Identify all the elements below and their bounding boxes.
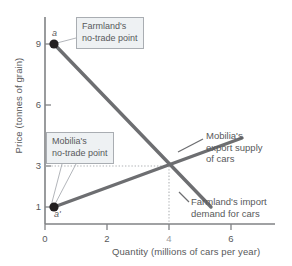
- callout-mobilia-no-trade-point[interactable]: Mobilia's no-trade point: [46, 132, 114, 164]
- curve-label-mobilia-export-supply: Mobilia's export supply of cars: [206, 130, 263, 165]
- callout-farmland-line2: no-trade point: [82, 33, 138, 45]
- leader-line-mobilia-a: [51, 164, 62, 206]
- y-tick-label-6: 6: [27, 99, 41, 110]
- point-a-prime-label: a': [54, 209, 61, 219]
- chart-container: Price (tonnes of grain) Quantity (millio…: [0, 0, 292, 266]
- callout-mobilia-line1: Mobilia's: [52, 136, 108, 148]
- leader-line-supply: [178, 139, 203, 152]
- y-tick-label-3: 3: [27, 160, 41, 171]
- curve-label-supply-line1: Mobilia's: [206, 130, 263, 142]
- y-tick-label-9: 9: [27, 38, 41, 49]
- curve-label-demand-line2: demand for cars: [191, 208, 267, 220]
- x-tick-label-4: 4: [162, 233, 176, 244]
- callout-farmland-line1: Farmland's: [82, 21, 138, 33]
- leader-line-demand: [179, 192, 189, 202]
- point-a-marker[interactable]: [49, 39, 58, 48]
- y-tick-label-1: 1: [27, 201, 41, 212]
- curve-label-demand-line1: Farmland's import: [191, 196, 267, 208]
- x-tick-label-0: 0: [38, 233, 52, 244]
- x-axis-title: Quantity (millions of cars per year): [112, 246, 260, 257]
- curve-label-supply-line3: of cars: [206, 153, 263, 165]
- x-tick-label-2: 2: [100, 233, 114, 244]
- curve-label-supply-line2: export supply: [206, 142, 263, 154]
- x-tick-label-6: 6: [224, 233, 238, 244]
- demand-curve[interactable]: [54, 44, 211, 207]
- curve-label-farmland-import-demand: Farmland's import demand for cars: [191, 196, 267, 219]
- callout-farmland-no-trade-point[interactable]: Farmland's no-trade point: [76, 17, 144, 49]
- y-axis-title: Price (tonnes of grain): [13, 41, 24, 171]
- point-a-label: a: [52, 28, 57, 38]
- callout-mobilia-line2: no-trade point: [52, 148, 108, 160]
